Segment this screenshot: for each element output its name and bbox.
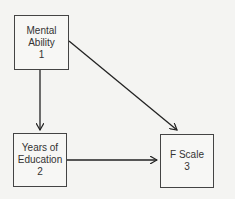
node-number: 2 xyxy=(37,166,43,178)
node-number: 1 xyxy=(39,49,45,61)
node-f-scale: F Scale 3 xyxy=(160,134,214,188)
node-mental-ability: Mental Ability 1 xyxy=(14,15,69,70)
node-label-line1: Years of xyxy=(22,142,58,154)
node-label-line2: Ability xyxy=(28,37,55,49)
node-label-line2: Education xyxy=(18,154,62,166)
node-number: 3 xyxy=(184,161,190,173)
node-label-line1: F Scale xyxy=(170,149,204,161)
node-years-of-education: Years of Education 2 xyxy=(13,133,67,187)
edge-1-to-3 xyxy=(69,41,177,130)
node-label-line1: Mental xyxy=(26,25,56,37)
